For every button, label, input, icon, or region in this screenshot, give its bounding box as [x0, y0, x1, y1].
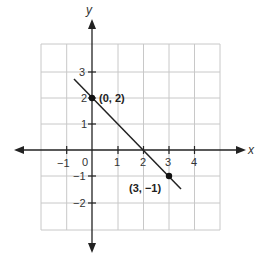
x-axis-left-arrow-icon: [14, 146, 24, 154]
coordinate-plane: −1 0 1 2 3 4 3 2 1 −1 −2 y x (0, 2) (3, …: [0, 0, 256, 253]
y-tick-2: 2: [81, 92, 87, 104]
x-axis-label: x: [247, 143, 255, 157]
point-0-2: [89, 95, 95, 101]
point-label-3-m1: (3, −1): [129, 182, 161, 194]
x-tick-2: 2: [140, 156, 146, 168]
y-axis-up-arrow-icon: [88, 19, 96, 29]
y-axis-label: y: [85, 3, 93, 17]
y-tick-m2: −2: [73, 197, 86, 209]
x-tick-4: 4: [191, 156, 197, 168]
x-tick-0: 0: [82, 156, 88, 168]
point-label-0-2: (0, 2): [99, 92, 125, 104]
y-tick-1: 1: [81, 118, 87, 130]
x-tick-m1: −1: [57, 157, 70, 169]
x-tick-3: 3: [165, 156, 171, 168]
x-axis-right-arrow-icon: [236, 146, 246, 154]
x-tick-1: 1: [114, 156, 120, 168]
y-tick-3: 3: [79, 66, 85, 78]
y-axis-down-arrow-icon: [88, 243, 96, 253]
point-3-m1: [166, 173, 172, 179]
y-tick-m1: −1: [73, 170, 86, 182]
